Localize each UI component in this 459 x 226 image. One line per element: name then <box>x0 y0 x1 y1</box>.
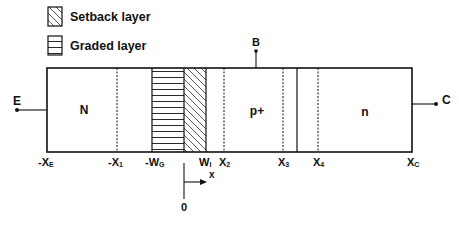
legend: Setback layer Graded layer <box>48 7 151 55</box>
setback-swatch-icon <box>48 7 62 26</box>
label-x4: X4 <box>313 156 324 168</box>
arrow-right-icon <box>200 179 207 185</box>
figure-caption-cutoff <box>0 220 290 226</box>
region-base-label: p+ <box>250 104 264 118</box>
base-label: B <box>252 36 260 48</box>
origin-zero-label: 0 <box>181 201 187 213</box>
region-collector-label: n <box>361 105 368 119</box>
setback-layer <box>184 68 206 152</box>
position-labels: -XE -X1 -WG WI X2 X3 X4 XC <box>38 156 419 168</box>
terminal-dot-icon <box>15 108 19 112</box>
device-outline <box>47 68 412 152</box>
region-emitter-label: N <box>80 103 89 117</box>
label-neg-x1: -X1 <box>108 156 123 168</box>
legend-label-graded: Graded layer <box>70 39 147 53</box>
graded-swatch-icon <box>48 36 62 55</box>
collector-terminal: C <box>412 93 451 107</box>
emitter-terminal: E <box>13 94 47 112</box>
hbt-structure-diagram: Setback layer Graded layer N p+ n E B C <box>0 0 459 226</box>
graded-layer <box>152 68 184 152</box>
legend-item-setback: Setback layer <box>48 7 151 26</box>
collector-label: C <box>442 93 451 107</box>
label-xc: XC <box>407 156 419 168</box>
legend-item-graded: Graded layer <box>48 36 147 55</box>
x-axis-label: x <box>209 169 215 180</box>
label-neg-xe: -XE <box>38 156 54 168</box>
label-x3: X3 <box>278 156 289 168</box>
terminal-dot-icon <box>254 49 258 53</box>
terminal-dot-icon <box>434 102 438 106</box>
origin-axis: x 0 <box>181 163 215 213</box>
emitter-label: E <box>13 94 21 108</box>
base-terminal: B <box>252 36 260 68</box>
label-neg-wg: -WG <box>145 156 165 168</box>
legend-label-setback: Setback layer <box>70 10 151 24</box>
label-x2: X2 <box>219 156 230 168</box>
label-wi: WI <box>199 156 211 168</box>
